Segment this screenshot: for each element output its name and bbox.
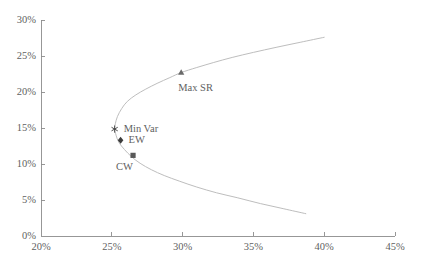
frontier-curve-0 [115,37,325,128]
y-tick-label-4: 20% [0,87,36,98]
y-tick-label-0: 0% [0,231,36,242]
y-tick-label-2: 10% [0,159,36,170]
y-tick-label-5: 25% [0,51,36,62]
x-tick-label-5: 45% [385,242,404,253]
y-tick-label-1: 5% [0,195,36,206]
x-tick-label-0: 20% [31,242,50,253]
point-label-ew: EW [129,135,145,146]
efficient-frontier-chart: 0%5%10%15%20%25%30% 20%25%30%35%40%45% M… [0,0,421,266]
axes-group [41,20,395,236]
point-label-min-var: Min Var [124,124,159,135]
x-tick-label-1: 25% [102,242,121,253]
chart-canvas [0,0,421,266]
x-tick-label-3: 35% [244,242,263,253]
x-tick-label-2: 30% [173,242,192,253]
marker-cw [130,153,135,158]
data-point-markers-group [112,69,185,158]
x-tick-label-4: 40% [315,242,334,253]
bottom-clipped-artifact [0,258,421,266]
marker-min-var [112,125,118,132]
point-label-max-sr: Max SR [178,83,213,94]
point-label-cw: CW [116,162,133,173]
y-tick-label-6: 30% [0,15,36,26]
y-tick-label-3: 15% [0,123,36,134]
